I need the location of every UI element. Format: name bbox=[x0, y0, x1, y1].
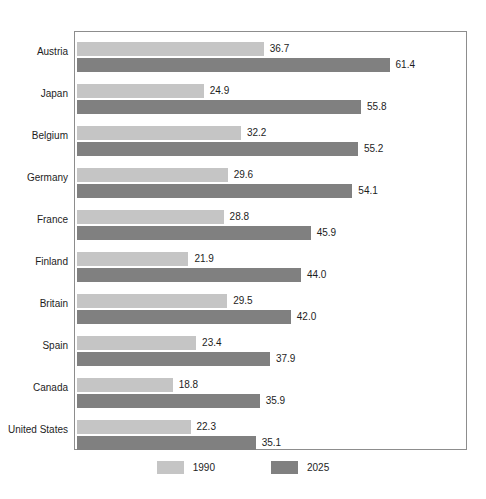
bar-group: 18.835.9 bbox=[75, 368, 466, 410]
bar-austria-2025[interactable] bbox=[77, 58, 390, 72]
bar-value-label: 61.4 bbox=[396, 60, 415, 70]
bar-belgium-2025[interactable] bbox=[77, 142, 358, 156]
legend-label: 1990 bbox=[193, 463, 215, 473]
bar-germany-2025[interactable] bbox=[77, 184, 352, 198]
bar-austria-1990[interactable] bbox=[77, 42, 264, 56]
bar-group: 32.255.2 bbox=[75, 116, 466, 158]
legend-swatch-1990 bbox=[157, 461, 184, 474]
category-label-united-states: United States bbox=[0, 425, 68, 435]
bar-germany-1990[interactable] bbox=[77, 168, 228, 182]
bar-japan-1990[interactable] bbox=[77, 84, 204, 98]
bar-finland-1990[interactable] bbox=[77, 252, 188, 266]
category-label-britain: Britain bbox=[0, 299, 68, 309]
bar-value-label: 55.8 bbox=[367, 102, 386, 112]
bar-value-label: 24.9 bbox=[210, 86, 229, 96]
bar-value-label: 23.4 bbox=[202, 338, 221, 348]
bar-value-label: 37.9 bbox=[276, 354, 295, 364]
chart-legend: 19902025 bbox=[0, 461, 486, 474]
bar-canada-2025[interactable] bbox=[77, 394, 260, 408]
bar-britain-2025[interactable] bbox=[77, 310, 291, 324]
category-label-france: France bbox=[0, 215, 68, 225]
legend-label: 2025 bbox=[307, 463, 329, 473]
bar-united-states-1990[interactable] bbox=[77, 420, 191, 434]
category-label-germany: Germany bbox=[0, 173, 68, 183]
bar-chart: AustriaJapanBelgiumGermanyFranceFinlandB… bbox=[0, 0, 486, 499]
bar-value-label: 29.6 bbox=[234, 170, 253, 180]
bar-value-label: 45.9 bbox=[317, 228, 336, 238]
bar-france-1990[interactable] bbox=[77, 210, 224, 224]
bar-value-label: 32.2 bbox=[247, 128, 266, 138]
bar-value-label: 54.1 bbox=[358, 186, 377, 196]
category-label-spain: Spain bbox=[0, 341, 68, 351]
bar-spain-1990[interactable] bbox=[77, 336, 196, 350]
bar-groups: 36.761.424.955.832.255.229.654.128.845.9… bbox=[75, 32, 466, 449]
bar-group: 28.845.9 bbox=[75, 200, 466, 242]
bar-united-states-2025[interactable] bbox=[77, 436, 256, 450]
bar-group: 23.437.9 bbox=[75, 326, 466, 368]
bar-group: 29.654.1 bbox=[75, 158, 466, 200]
bar-value-label: 22.3 bbox=[197, 422, 216, 432]
bar-france-2025[interactable] bbox=[77, 226, 311, 240]
bar-belgium-1990[interactable] bbox=[77, 126, 241, 140]
bar-value-label: 28.8 bbox=[230, 212, 249, 222]
bar-group: 36.761.4 bbox=[75, 32, 466, 74]
bar-group: 24.955.8 bbox=[75, 74, 466, 116]
legend-swatch-2025 bbox=[271, 461, 298, 474]
category-label-belgium: Belgium bbox=[0, 131, 68, 141]
bar-group: 29.542.0 bbox=[75, 284, 466, 326]
bar-value-label: 21.9 bbox=[194, 254, 213, 264]
category-label-finland: Finland bbox=[0, 257, 68, 267]
bar-japan-2025[interactable] bbox=[77, 100, 361, 114]
bar-value-label: 35.9 bbox=[266, 396, 285, 406]
bar-value-label: 55.2 bbox=[364, 144, 383, 154]
bar-finland-2025[interactable] bbox=[77, 268, 301, 282]
bar-value-label: 44.0 bbox=[307, 270, 326, 280]
category-label-japan: Japan bbox=[0, 89, 68, 99]
bar-spain-2025[interactable] bbox=[77, 352, 270, 366]
legend-item-2025[interactable]: 2025 bbox=[271, 461, 329, 474]
bar-value-label: 29.5 bbox=[233, 296, 252, 306]
legend-item-1990[interactable]: 1990 bbox=[157, 461, 215, 474]
bar-group: 22.335.1 bbox=[75, 410, 466, 452]
bar-value-label: 36.7 bbox=[270, 44, 289, 54]
bar-canada-1990[interactable] bbox=[77, 378, 173, 392]
category-label-austria: Austria bbox=[0, 47, 68, 57]
bar-value-label: 18.8 bbox=[179, 380, 198, 390]
bar-value-label: 35.1 bbox=[262, 438, 281, 448]
bar-britain-1990[interactable] bbox=[77, 294, 227, 308]
bar-group: 21.944.0 bbox=[75, 242, 466, 284]
bar-value-label: 42.0 bbox=[297, 312, 316, 322]
category-label-canada: Canada bbox=[0, 383, 68, 393]
